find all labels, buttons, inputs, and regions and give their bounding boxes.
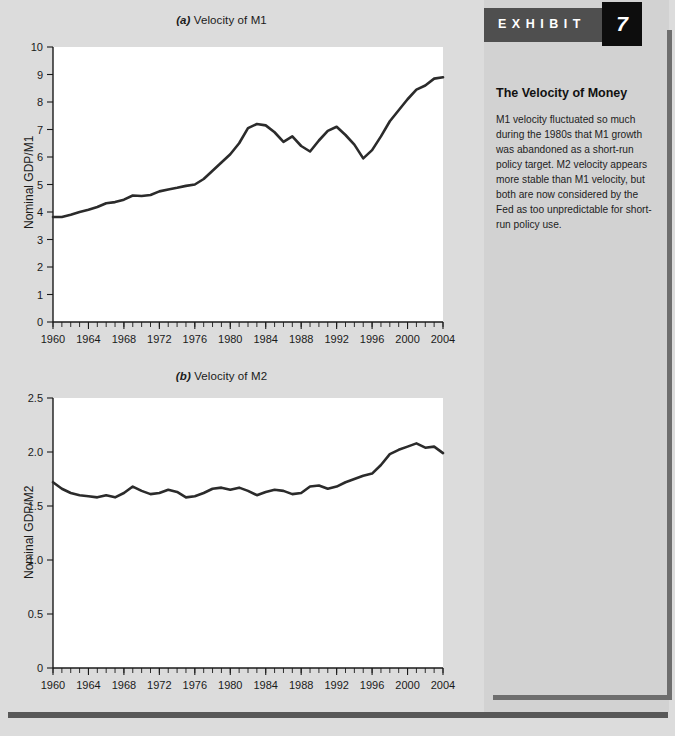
chart-a-y-axis-label: Nominal GDP/M1 [22,135,36,228]
x-tick-label: 2000 [395,679,419,691]
y-tick-label: 2.0 [28,446,43,458]
chart-a-panel-label: (a) [176,14,190,26]
y-tick-label: 3 [37,234,43,246]
charts-column: (a) Velocity of M1 Nominal GDP/M1 012345… [0,0,480,710]
y-tick-label: 2 [37,261,43,273]
x-tick-label: 2004 [431,679,455,691]
x-tick-label: 1976 [183,333,207,345]
exhibit-number: 7 [602,2,642,46]
y-tick-label: 0 [37,662,43,674]
y-tick-label: 0 [37,316,43,328]
x-tick-label: 1964 [76,679,100,691]
y-tick-label: 0.5 [28,608,43,620]
page-bottom-rule [8,712,668,718]
chart-b-title-text: Velocity of M2 [194,370,267,382]
y-tick-label: 4 [37,206,43,218]
chart-b-panel-label: (b) [176,370,191,382]
x-tick-label: 1988 [289,333,313,345]
panel-right-edge [667,30,672,700]
chart-a-title-text: Velocity of M1 [194,14,267,26]
plot-area [53,398,443,668]
x-tick-label: 1980 [218,679,242,691]
panel-bottom-edge [493,695,672,700]
x-tick-label: 1992 [324,679,348,691]
exhibit-word-label: EXHIBIT [498,17,586,31]
chart-b-title: (b) Velocity of M2 [0,370,443,382]
y-tick-label: 6 [37,151,43,163]
x-tick-label: 1992 [324,333,348,345]
y-tick-label: 5 [37,179,43,191]
x-tick-label: 1980 [218,333,242,345]
x-tick-label: 1996 [360,679,384,691]
x-tick-label: 1960 [41,333,65,345]
x-tick-label: 1960 [41,679,65,691]
x-tick-label: 1984 [253,333,277,345]
x-tick-label: 1968 [112,333,136,345]
y-tick-label: 1 [37,289,43,301]
y-tick-label: 10 [31,41,43,53]
y-tick-label: 9 [37,69,43,81]
chart-velocity-m2: (b) Velocity of M2 Nominal GDP/M2 00.51.… [0,370,470,710]
exhibit-page: (a) Velocity of M1 Nominal GDP/M1 012345… [0,0,675,736]
chart-a-plot: 0123456789101960196419681972197619801984… [0,14,470,364]
y-tick-label: 7 [37,124,43,136]
sidebar-heading: The Velocity of Money [496,86,660,100]
chart-a-title: (a) Velocity of M1 [0,14,443,26]
x-tick-label: 1976 [183,679,207,691]
x-tick-label: 1996 [360,333,384,345]
x-tick-label: 1968 [112,679,136,691]
plot-area [53,47,443,322]
x-tick-label: 2004 [431,333,455,345]
x-tick-label: 2000 [395,333,419,345]
x-tick-label: 1972 [147,333,171,345]
x-tick-label: 1984 [253,679,277,691]
chart-b-y-axis-label: Nominal GDP/M2 [22,486,36,579]
y-tick-label: 2.5 [28,392,43,404]
exhibit-sidebar: EXHIBIT 7 The Velocity of Money M1 veloc… [484,0,669,712]
y-tick-label: 8 [37,96,43,108]
exhibit-number-box: 7 [602,2,642,46]
x-tick-label: 1988 [289,679,313,691]
x-tick-label: 1964 [76,333,100,345]
sidebar-body-text: M1 velocity fluctuated so much during th… [496,112,656,232]
chart-velocity-m1: (a) Velocity of M1 Nominal GDP/M1 012345… [0,14,470,364]
x-tick-label: 1972 [147,679,171,691]
chart-b-plot: 00.51.01.52.02.5196019641968197219761980… [0,370,470,710]
